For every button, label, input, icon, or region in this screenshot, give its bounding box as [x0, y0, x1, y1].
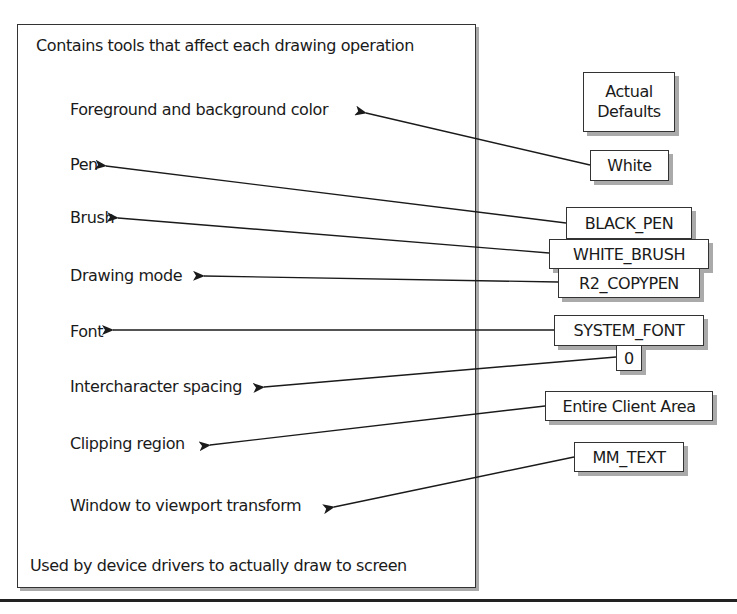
label-drawing-mode: Drawing mode	[70, 266, 182, 285]
default-white-brush: WHITE_BRUSH	[549, 239, 709, 269]
default-white: White	[590, 150, 669, 181]
defaults-header-line1: Actual	[605, 82, 653, 102]
label-color: Foreground and background color	[70, 100, 328, 119]
label-brush: Brush	[70, 208, 114, 227]
bottom-rule	[0, 599, 737, 602]
actual-defaults-header: Actual Defaults	[583, 72, 675, 132]
label-pen: Pen	[70, 155, 98, 174]
default-mm-text: MM_TEXT	[574, 442, 684, 472]
label-font: Font	[70, 322, 103, 341]
default-system-font: SYSTEM_FONT	[554, 315, 704, 346]
default-entire-client-area: Entire Client Area	[545, 391, 713, 421]
label-clipping-region: Clipping region	[70, 434, 185, 453]
default-black-pen: BLACK_PEN	[566, 207, 692, 239]
label-intercharacter-spacing: Intercharacter spacing	[70, 377, 242, 396]
default-r2-copypen: R2_COPYPEN	[558, 268, 700, 298]
box-footer: Used by device drivers to actually draw …	[30, 556, 407, 575]
box-header: Contains tools that affect each drawing …	[36, 36, 414, 55]
label-viewport-transform: Window to viewport transform	[70, 496, 301, 515]
default-spacing-zero: 0	[616, 345, 642, 371]
defaults-header-line2: Defaults	[597, 102, 661, 122]
